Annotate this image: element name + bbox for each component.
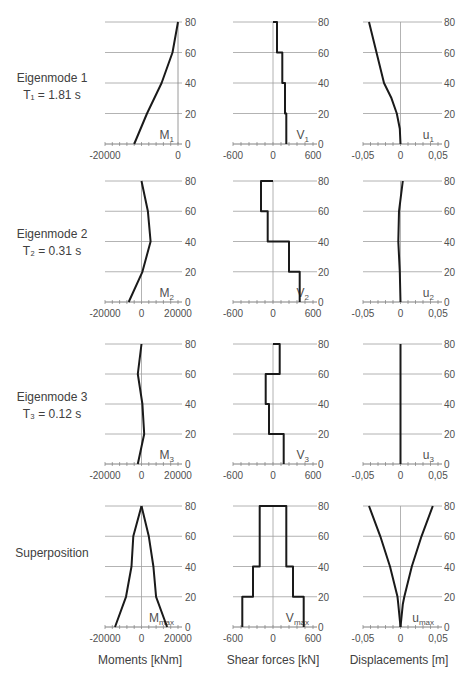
svg-text:20: 20 [318,267,330,278]
svg-text:0: 0 [139,308,145,319]
chart-1-1: 020406080-200000M1 [89,17,196,161]
svg-text:0: 0 [398,150,404,161]
svg-text:20: 20 [444,267,456,278]
svg-text:20: 20 [185,429,197,440]
svg-text:80: 80 [318,339,330,350]
svg-text:20: 20 [318,109,330,120]
svg-text:0,05: 0,05 [428,470,448,481]
svg-text:M1: M1 [160,128,175,144]
svg-text:20: 20 [318,429,330,440]
svg-text:0,05: 0,05 [428,150,448,161]
svg-text:60: 60 [444,206,456,217]
chart-3-3: 020406080-0,0500,05u3 [352,339,456,481]
svg-text:u3: u3 [423,448,435,464]
svg-text:40: 40 [444,399,456,410]
chart-2-2: 020406080-6000600V2 [223,176,330,319]
svg-text:20: 20 [318,592,330,603]
svg-text:0: 0 [175,150,181,161]
svg-text:600: 600 [305,308,322,319]
svg-text:60: 60 [318,48,330,59]
row-title: Eigenmode 2 [2,226,102,243]
svg-text:0: 0 [318,297,324,308]
svg-text:-0,05: -0,05 [352,308,375,319]
row-period: T₂ = 0.31 s [2,243,102,260]
row-title: Eigenmode 1 [2,70,102,87]
svg-text:80: 80 [185,339,197,350]
svg-text:20: 20 [185,267,197,278]
svg-text:600: 600 [305,470,322,481]
svg-text:0: 0 [444,459,450,470]
row-title: Eigenmode 3 [2,389,102,406]
column-title-shear: Shear forces [kN] [208,653,338,667]
column-title-moments: Moments [kNm] [75,653,205,667]
svg-text:V2: V2 [297,286,310,302]
svg-text:20: 20 [444,109,456,120]
svg-text:600: 600 [305,633,322,644]
chart-4-2: 020406080-6000600Vmax [223,501,330,644]
svg-text:0: 0 [318,139,324,150]
svg-text:0: 0 [318,459,324,470]
svg-text:600: 600 [305,150,322,161]
svg-text:60: 60 [185,531,197,542]
svg-text:40: 40 [318,562,330,573]
svg-text:0: 0 [270,470,276,481]
svg-text:40: 40 [318,399,330,410]
svg-text:80: 80 [444,17,456,28]
svg-text:u1: u1 [423,128,435,144]
svg-text:60: 60 [444,369,456,380]
svg-text:0: 0 [444,622,450,633]
svg-text:-600: -600 [223,150,243,161]
svg-text:-20000: -20000 [89,308,121,319]
svg-text:60: 60 [318,206,330,217]
chart-4-3: 020406080-0,0500,05umax [352,501,456,644]
svg-text:-20000: -20000 [89,633,121,644]
svg-text:0: 0 [444,139,450,150]
svg-text:0: 0 [398,470,404,481]
svg-text:40: 40 [185,78,197,89]
svg-text:40: 40 [318,78,330,89]
svg-text:40: 40 [444,562,456,573]
svg-text:0: 0 [139,470,145,481]
svg-text:20000: 20000 [164,633,192,644]
svg-text:0,05: 0,05 [428,308,448,319]
svg-text:40: 40 [185,399,197,410]
row-label-eigenmode-1: Eigenmode 1 T₁ = 1.81 s [2,70,102,104]
chart-1-3: 020406080-0,0500,05u1 [352,17,456,161]
svg-text:40: 40 [185,237,197,248]
svg-text:M3: M3 [160,448,175,464]
svg-text:40: 40 [444,78,456,89]
svg-text:-600: -600 [223,308,243,319]
svg-text:0: 0 [185,139,191,150]
svg-text:0: 0 [318,622,324,633]
column-title-displacements: Displacements [m] [334,653,464,667]
svg-text:0: 0 [185,297,191,308]
svg-text:80: 80 [318,17,330,28]
row-title: Superposition [2,545,102,562]
svg-text:0: 0 [185,459,191,470]
svg-text:60: 60 [185,206,197,217]
svg-text:80: 80 [185,501,197,512]
svg-text:-600: -600 [223,633,243,644]
svg-text:80: 80 [318,176,330,187]
row-period: T₁ = 1.81 s [2,87,102,104]
svg-text:umax: umax [412,611,434,627]
svg-text:u2: u2 [423,286,435,302]
svg-text:-0,05: -0,05 [352,150,375,161]
svg-text:V1: V1 [297,128,310,144]
svg-text:80: 80 [185,17,197,28]
svg-text:60: 60 [318,531,330,542]
row-period: T₃ = 0.12 s [2,406,102,423]
svg-text:-0,05: -0,05 [352,470,375,481]
row-label-eigenmode-2: Eigenmode 2 T₂ = 0.31 s [2,226,102,260]
svg-text:0: 0 [398,633,404,644]
svg-text:80: 80 [444,501,456,512]
svg-text:-600: -600 [223,470,243,481]
svg-text:V3: V3 [297,448,310,464]
svg-text:60: 60 [185,369,197,380]
row-label-superposition: Superposition [2,545,102,562]
svg-text:0: 0 [444,297,450,308]
svg-text:0: 0 [270,150,276,161]
svg-text:60: 60 [444,48,456,59]
svg-text:0: 0 [270,308,276,319]
svg-text:20000: 20000 [164,308,192,319]
